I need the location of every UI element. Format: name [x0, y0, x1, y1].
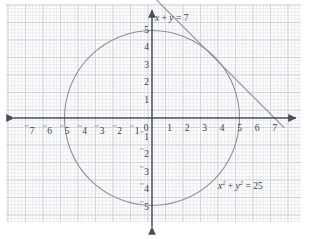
x-tick: ⁻5	[59, 124, 69, 137]
y-tick: 1	[144, 96, 149, 106]
y-tick: ⁻5	[139, 199, 149, 212]
line-eq-plus: +	[159, 13, 169, 23]
circle-eq-equals: =	[243, 181, 253, 191]
line-eq-rhs: 7	[184, 13, 189, 23]
y-tick: ⁻3	[139, 164, 149, 177]
x-tick: ⁻2	[112, 124, 122, 137]
graph-figure: ⁻7 ⁻6 ⁻5 ⁻4 ⁻3 ⁻2 ⁻1 0 1 2 3 4 5 6 7 5 4…	[0, 0, 310, 239]
circle-equation-label: x2 + y2 = 25	[218, 180, 263, 192]
plot-svg	[0, 0, 310, 239]
line-equation-label: x + y = 7	[155, 14, 188, 24]
x-tick: ⁻3	[94, 124, 104, 137]
x-tick: 7	[272, 124, 277, 134]
y-tick: 2	[144, 78, 149, 88]
circle-eq-plus: +	[225, 181, 235, 191]
y-tick: ⁻1	[139, 129, 149, 142]
x-tick: ⁻6	[42, 124, 52, 137]
y-tick: ⁻2	[139, 147, 149, 160]
x-tick: 2	[185, 124, 190, 134]
y-tick: 4	[144, 43, 149, 53]
x-tick: ⁻7	[24, 124, 34, 137]
y-tick: 3	[144, 61, 149, 71]
y-tick: ⁻4	[139, 182, 149, 195]
circle-eq-rhs: 25	[253, 181, 263, 191]
x-tick: 4	[220, 124, 225, 134]
x-tick: 6	[255, 124, 260, 134]
line-eq-equals: =	[174, 13, 184, 23]
x-tick: 3	[202, 124, 207, 134]
x-tick: 5	[237, 124, 242, 134]
x-tick: ⁻4	[77, 124, 87, 137]
y-tick: 5	[144, 26, 149, 36]
x-tick: 1	[167, 124, 172, 134]
